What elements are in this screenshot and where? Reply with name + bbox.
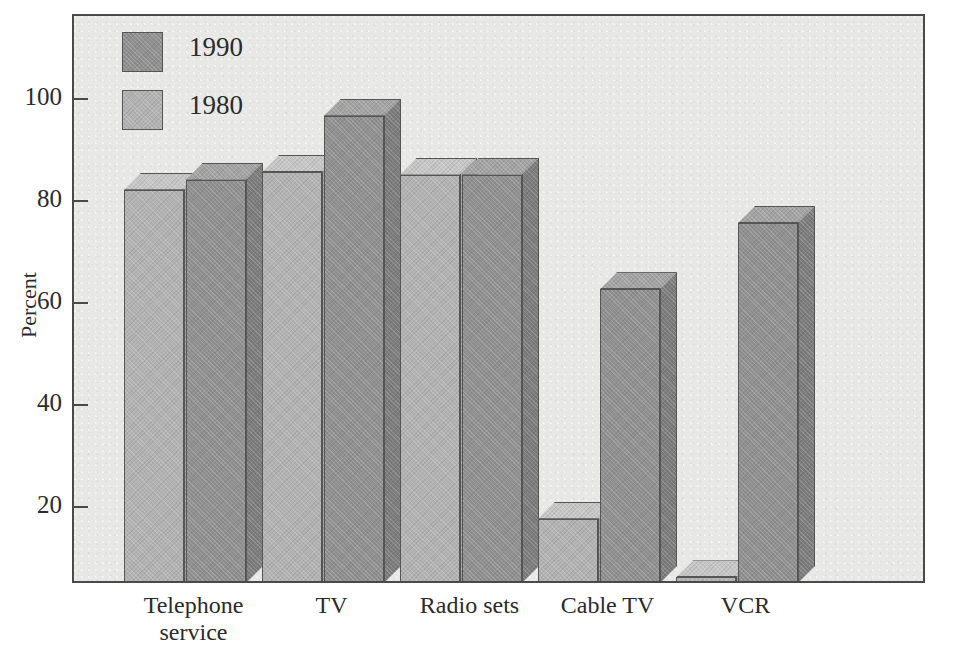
x-tick-label-4: VCR: [636, 592, 856, 619]
bar-front-face: [538, 519, 598, 583]
bar-front-face: [600, 289, 660, 583]
y-axis-title: Percent: [16, 245, 42, 365]
bar-side-face: [798, 206, 815, 583]
bar-side-face: [522, 158, 539, 584]
plot-area: 1990 1980: [72, 14, 925, 583]
y-tick-40: [74, 404, 88, 406]
bar-front-face: [262, 172, 322, 583]
legend-label-1980: 1980: [189, 92, 243, 119]
bar-side-face: [660, 272, 677, 583]
bar-side-face: [246, 163, 263, 583]
y-tick-60: [74, 302, 88, 304]
y-tick-20: [74, 506, 88, 508]
bar-side-face: [384, 99, 401, 583]
legend-label-1990: 1990: [189, 34, 243, 61]
bar-front-face: [400, 175, 460, 584]
y-tick-label-40: 40: [37, 390, 62, 415]
bar-1990-1: [324, 99, 401, 583]
bar-front-face: [738, 223, 798, 583]
bar-1990-0: [186, 163, 263, 583]
y-tick-label-20: 20: [37, 492, 62, 517]
bar-1990-4: [738, 206, 815, 583]
bar-front-face: [186, 180, 246, 583]
bar-front-face: [124, 190, 184, 583]
bar-front-face: [676, 577, 736, 583]
y-tick-label-100: 100: [25, 84, 63, 109]
bar-1990-2: [462, 158, 539, 584]
chart-figure: 100 80 60 40 20 Percent 1990 1980 Teleph…: [0, 0, 956, 645]
bar-1990-3: [600, 272, 677, 583]
legend-swatch-1990: [122, 32, 163, 72]
bar-front-face: [462, 175, 522, 584]
legend-swatch-1980: [122, 90, 163, 130]
y-tick-100: [74, 98, 88, 100]
bar-front-face: [324, 116, 384, 583]
y-tick-label-80: 80: [37, 186, 62, 211]
y-tick-80: [74, 200, 88, 202]
